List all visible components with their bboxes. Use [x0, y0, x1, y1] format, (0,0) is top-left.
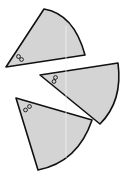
- sectors-diagram: [0, 0, 128, 183]
- sector-top: [6, 9, 85, 67]
